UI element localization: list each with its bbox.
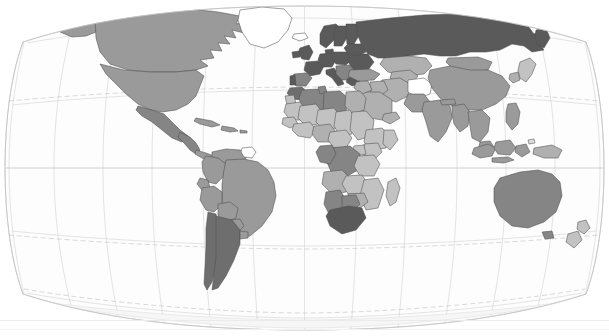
country-pacific-islands [528, 139, 535, 144]
legend-divider-top [0, 320, 609, 321]
country-portugal [290, 75, 296, 85]
country-uruguay [240, 231, 248, 239]
legend-divider-bottom [0, 329, 609, 330]
country-ukraine [348, 54, 374, 70]
country-nepal-bhutan [440, 99, 456, 105]
country-ireland [292, 51, 300, 58]
world-map-canvas [0, 0, 609, 336]
world-map-figure [0, 0, 609, 336]
